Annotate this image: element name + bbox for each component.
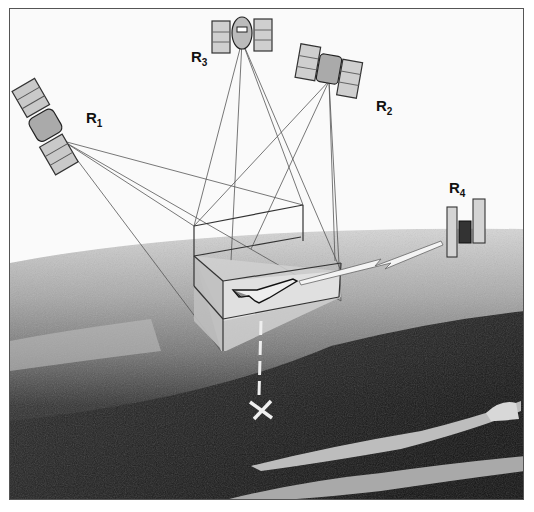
label-R2: R2: [376, 97, 392, 117]
illustration: [10, 9, 524, 500]
label-R1: R1: [86, 109, 102, 129]
label-R4-letter: R: [449, 179, 460, 196]
label-R4-subscript: 4: [460, 188, 466, 199]
label-R3: R3: [191, 48, 207, 68]
satellite-R1: [10, 78, 82, 174]
label-R2-letter: R: [376, 97, 387, 114]
label-R1-subscript: 1: [97, 118, 103, 129]
label-R3-letter: R: [191, 48, 202, 65]
satellite-R2: [293, 44, 364, 98]
label-R4: R4: [449, 179, 465, 199]
satellite-R3: [212, 17, 272, 53]
label-R2-subscript: 2: [387, 106, 393, 117]
label-R1-letter: R: [86, 109, 97, 126]
figure-frame: R1 R2 R3 R4: [9, 8, 524, 500]
label-R3-subscript: 3: [202, 57, 208, 68]
